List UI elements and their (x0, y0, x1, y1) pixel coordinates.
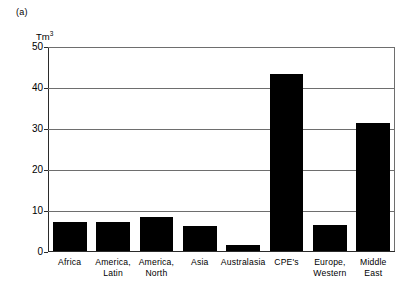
y-tick-label-10: 10 (32, 206, 43, 216)
y-tick-label-40: 40 (32, 83, 43, 93)
bar (313, 225, 347, 252)
y-tick-label-30: 30 (32, 124, 43, 134)
y-tick-label-20: 20 (32, 165, 43, 175)
y-axis-unit-exponent: 3 (50, 30, 54, 37)
bar (96, 222, 130, 252)
plot-area: 01020304050 (48, 47, 395, 252)
bar (356, 123, 390, 252)
bar (270, 74, 304, 252)
bar (53, 222, 87, 252)
x-axis-label: Middle East (348, 257, 399, 278)
panel-label: (a) (16, 8, 28, 17)
y-tick-label-50: 50 (32, 42, 43, 52)
bar (183, 226, 217, 252)
y-tick-mark-0 (44, 252, 48, 253)
bar-series (48, 47, 395, 252)
y-tick-label-0: 0 (37, 247, 43, 257)
bar (140, 217, 174, 252)
figure-panel-a: (a) Tm3 01020304050 AfricaAmerica, Latin… (0, 0, 410, 297)
x-axis-line (48, 251, 395, 252)
x-axis-category-labels: AfricaAmerica, LatinAmerica, NorthAsiaAu… (48, 257, 395, 293)
